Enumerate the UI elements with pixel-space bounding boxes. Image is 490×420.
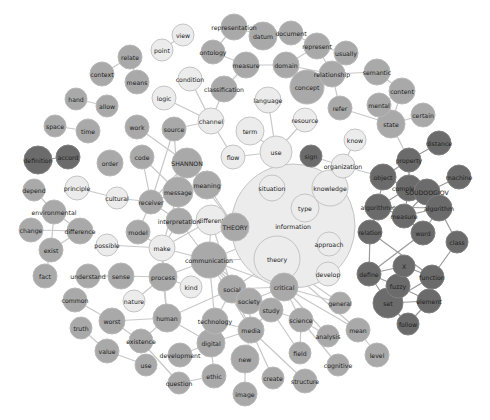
node-time[interactable]: time (76, 119, 100, 143)
node-follow[interactable]: follow (397, 313, 419, 335)
node-situation[interactable]: situation (259, 175, 286, 201)
node-classification[interactable]: classification (204, 76, 244, 102)
node-difference[interactable]: difference (64, 218, 95, 244)
node-nature[interactable]: nature (123, 290, 145, 312)
node-channel[interactable]: channel (198, 108, 224, 134)
node-sign[interactable]: sign (300, 145, 322, 167)
node-resource[interactable]: resource (292, 108, 319, 132)
node-distance[interactable]: distance (426, 131, 452, 155)
node-language[interactable]: language (254, 87, 283, 113)
node-field[interactable]: field (289, 342, 311, 364)
node-technology[interactable]: technology (198, 308, 233, 334)
node-process[interactable]: process (149, 263, 177, 291)
node-human[interactable]: human (153, 304, 181, 332)
node-class[interactable]: class (446, 231, 468, 253)
node-media[interactable]: media (238, 317, 264, 343)
node-hand[interactable]: hand (65, 88, 87, 110)
node-science[interactable]: science (289, 308, 313, 332)
node-definition[interactable]: definition (23, 146, 52, 174)
node-new[interactable]: new (231, 345, 259, 373)
node-development[interactable]: development (160, 343, 201, 367)
node-machine[interactable]: machine (446, 165, 473, 189)
node-value[interactable]: value (95, 339, 119, 363)
node-understand[interactable]: understand (70, 264, 105, 288)
node-common[interactable]: common (62, 288, 89, 312)
node-know[interactable]: know (344, 129, 366, 151)
node-make[interactable]: make (149, 235, 175, 261)
node-critical[interactable]: critical (270, 273, 298, 301)
node-kind[interactable]: kind (180, 276, 202, 298)
node-use[interactable]: use (260, 136, 292, 168)
node-label: possible (94, 242, 120, 250)
node-usually[interactable]: usually (334, 41, 358, 65)
node-depend[interactable]: depend (22, 179, 45, 201)
node-society[interactable]: society (236, 288, 262, 314)
node-change[interactable]: change (19, 218, 43, 242)
node-label: different (198, 217, 225, 224)
node-allow[interactable]: allow (96, 95, 118, 117)
node-relate[interactable]: relate (118, 45, 142, 69)
node-meaning[interactable]: meaning (193, 171, 221, 199)
node-property[interactable]: property (396, 148, 423, 172)
node-communication[interactable]: communication (185, 242, 233, 278)
node-truth[interactable]: truth (70, 317, 92, 339)
node-receiver[interactable]: receiver (138, 190, 164, 214)
node-image[interactable]: image (233, 382, 257, 406)
node-analysis[interactable]: analysis (315, 325, 340, 347)
node-possible[interactable]: possible (94, 234, 120, 256)
node-view[interactable]: view (172, 24, 194, 46)
node-question[interactable]: question (166, 372, 193, 394)
node-point[interactable]: point (151, 39, 173, 61)
node-message[interactable]: message (163, 177, 193, 207)
node-term[interactable]: term (236, 117, 264, 145)
node-semantic[interactable]: semantic (363, 59, 392, 85)
node-function[interactable]: function (419, 265, 444, 289)
node-refer[interactable]: refer (328, 96, 352, 120)
node-word[interactable]: word (411, 221, 435, 245)
node-domain[interactable]: domain (273, 52, 299, 78)
node-x[interactable]: X (393, 255, 415, 277)
node-develop[interactable]: develop (316, 262, 341, 286)
node-element[interactable]: element (416, 289, 442, 313)
node-mean[interactable]: mean (346, 318, 370, 342)
node-represent[interactable]: represent (302, 33, 332, 59)
node-means[interactable]: means (125, 70, 149, 94)
node-theory[interactable]: THEORY (221, 213, 249, 241)
node-ontology[interactable]: ontology (199, 40, 226, 64)
node-accord[interactable]: accord (56, 145, 80, 169)
node-code[interactable]: code (130, 145, 154, 169)
node-fact[interactable]: fact (33, 264, 57, 288)
node-order[interactable]: order (97, 150, 123, 176)
node-model[interactable]: model (126, 220, 150, 244)
node-existence[interactable]: existence (126, 329, 156, 353)
node-content[interactable]: content (389, 78, 415, 104)
node-structure[interactable]: structure (291, 369, 319, 393)
node-sense[interactable]: sense (108, 263, 134, 289)
node-type[interactable]: type (291, 194, 319, 222)
node-exist[interactable]: exist (39, 238, 63, 262)
node-work[interactable]: work (125, 115, 149, 139)
node-create[interactable]: create (262, 367, 284, 389)
node-ethic[interactable]: ethic (202, 364, 226, 388)
node-space[interactable]: space (44, 115, 66, 137)
node-general[interactable]: general (328, 292, 352, 314)
node-study[interactable]: study (259, 298, 283, 322)
node-level[interactable]: level (365, 343, 389, 367)
node-define[interactable]: define (357, 262, 381, 286)
node-context[interactable]: context (90, 62, 114, 86)
node-worst[interactable]: worst (99, 308, 125, 334)
node-fuzzy[interactable]: fuzzy (386, 274, 410, 298)
node-document[interactable]: document (275, 21, 307, 45)
node-logic[interactable]: logic (152, 86, 176, 110)
node-cultural[interactable]: cultural (105, 187, 129, 209)
node-source[interactable]: source (162, 117, 186, 141)
node-measure_top[interactable]: measure (233, 52, 260, 78)
node-condition[interactable]: condition (176, 67, 205, 91)
node-principle[interactable]: principle (64, 176, 91, 200)
node-certain[interactable]: certain (411, 103, 435, 127)
node-cognitive[interactable]: cognitive (324, 354, 353, 376)
node-relation[interactable]: relation (358, 220, 382, 244)
node-flow[interactable]: flow (221, 145, 245, 169)
node-use_low[interactable]: use (135, 354, 157, 376)
node-mental[interactable]: mental (367, 93, 391, 117)
